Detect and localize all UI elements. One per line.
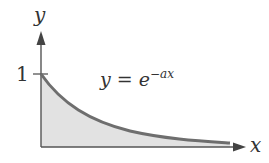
equation-label: y = e−ax xyxy=(99,67,174,90)
x-axis-label: x xyxy=(250,133,261,157)
x-axis-arrow-icon xyxy=(233,143,246,152)
exponential-decay-diagram: y x 1 y = e−ax xyxy=(0,0,269,163)
equation-body: = e xyxy=(111,68,150,90)
equation-y: y xyxy=(99,68,111,90)
tick-one-label: 1 xyxy=(16,62,29,86)
y-axis-arrow-icon xyxy=(37,31,46,45)
y-axis-label: y xyxy=(33,3,46,27)
equation-exponent: −ax xyxy=(150,67,174,81)
